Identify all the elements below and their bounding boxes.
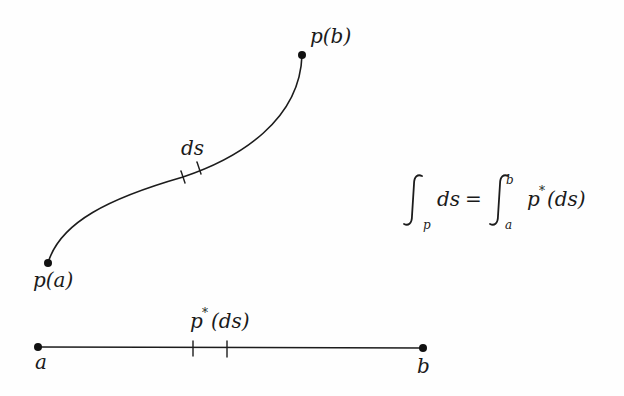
integral-right-subscript: a: [505, 218, 512, 232]
integral-sign-left: [404, 175, 422, 224]
interval-element-label: p * (ds): [190, 306, 250, 333]
integral-left-subscript: p: [423, 218, 431, 232]
curve-start-point: [44, 259, 52, 267]
integral-left-integrand: ds: [437, 187, 460, 211]
pullback-arg: (ds): [211, 309, 250, 333]
pullback-star: *: [202, 306, 208, 320]
curve-p: [48, 55, 302, 263]
equals-sign: =: [465, 187, 482, 211]
diagram-svg: p(a) p(b) ds a b p * (ds) p ds = b a p *…: [0, 0, 624, 396]
curve-end-point: [298, 51, 306, 59]
integral-right-integrand-arg: (ds): [547, 187, 586, 211]
integral-right-superscript: b: [506, 173, 514, 187]
curve-element-label: ds: [181, 136, 204, 160]
curve-start-label: p(a): [33, 268, 73, 292]
integral-right-integrand-star: *: [539, 184, 545, 198]
interval-end-point: [419, 344, 427, 352]
interval-left-label: a: [35, 350, 47, 374]
curve-end-label: p(b): [310, 24, 351, 48]
interval-right-label: b: [417, 354, 430, 378]
integral-formula: p ds = b a p * (ds): [404, 173, 586, 232]
interval-segment: [38, 347, 423, 348]
diagram-canvas: p(a) p(b) ds a b p * (ds) p ds = b a p *…: [0, 0, 624, 396]
